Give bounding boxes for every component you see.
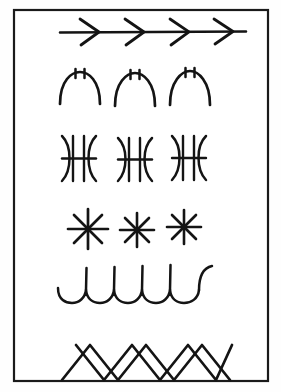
scallop-hook (170, 265, 171, 290)
eight-point-star (167, 210, 201, 244)
arrow-baseline (60, 32, 246, 33)
plate-canvas (0, 0, 281, 392)
scallop-hook (86, 268, 87, 290)
scallop-hook (142, 266, 143, 290)
eight-point-star (68, 209, 108, 249)
scallop-hook (114, 267, 115, 290)
stitch-pattern-plate (0, 0, 281, 392)
border-frame (14, 10, 268, 381)
eight-point-star (120, 213, 154, 247)
